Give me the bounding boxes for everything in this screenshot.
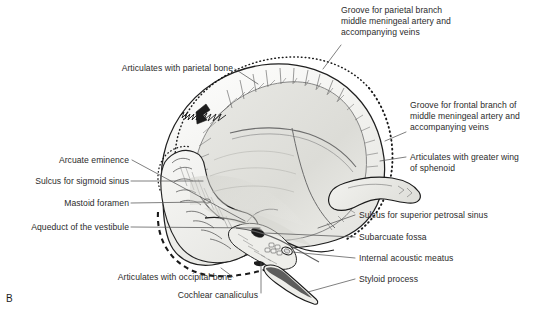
leader-groove-frontal-branch [385, 132, 406, 141]
label-sulcus-sigmoid-sinus: Sulcus for sigmoid sinus [0, 176, 129, 187]
label-mastoid-foramen: Mastoid foramen [0, 198, 129, 209]
label-articulates-greater-wing-sphenoid: Articulates with greater wing of sphenoi… [410, 152, 519, 174]
label-articulates-parietal-bone: Articulates with parietal bone [83, 63, 233, 74]
label-arcuate-eminence: Arcuate eminence [0, 155, 129, 166]
bone-body [158, 57, 420, 304]
anatomical-figure-panel: Groove for parietal branch middle mening… [0, 0, 549, 314]
panel-letter: B [6, 293, 13, 304]
label-aqueduct-of-the-vestibule: Aqueduct of the vestibule [0, 222, 129, 233]
label-subarcuate-fossa: Subarcuate fossa [359, 232, 427, 243]
leader-internal-acoustic-meatus [292, 252, 355, 258]
label-internal-acoustic-meatus: Internal acoustic meatus [359, 253, 453, 264]
label-groove-parietal-branch: Groove for parietal branch middle mening… [341, 5, 451, 39]
label-articulates-occipital-bone: Articulates with occipital bone [60, 272, 232, 283]
label-styloid-process: Styloid process [359, 274, 418, 285]
leader-styloid-process [308, 279, 355, 292]
label-sulcus-superior-petrosal-sinus: Sulcus for superior petrosal sinus [359, 210, 488, 221]
label-cochlear-canaliculus: Cochlear canaliculus [150, 290, 258, 301]
styloid-process-shadow [266, 267, 312, 298]
label-groove-frontal-branch: Groove for frontal branch of middle meni… [410, 100, 520, 134]
